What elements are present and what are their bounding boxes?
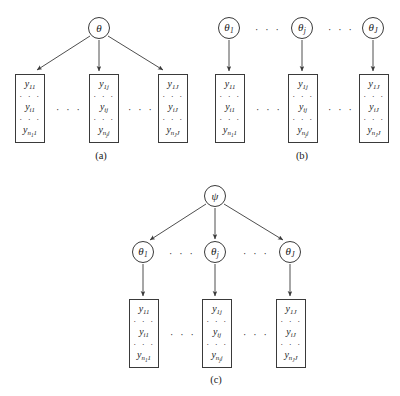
panel-c-theta1-sub: 1 — [144, 250, 148, 259]
panel-a-caption: (a) — [86, 150, 116, 161]
vertical-dots: · · · — [292, 115, 314, 124]
cell-ynjj: ynjj — [98, 125, 109, 138]
cell-yn11: yn11 — [223, 125, 237, 138]
panel-b-theta1-node: θ1 — [218, 17, 240, 39]
cell-ynJJ: ynJJ — [284, 350, 297, 363]
cell-yij: yij — [213, 327, 221, 339]
panel-c-theta-arrows — [143, 264, 290, 296]
panel-a-databox-2: y1j · · · yij · · · ynjj — [89, 74, 119, 143]
vertical-dots: · · · — [280, 317, 302, 326]
panel-b-thetaj-node: θj — [291, 17, 313, 39]
panel-b-theta1-symbol: θ1 — [224, 22, 233, 35]
panel-b-thetaJ-node: θJ — [362, 17, 384, 39]
cell-yiJ: yiJ — [369, 102, 378, 114]
panel-b-thetaj-sub: j — [304, 26, 306, 35]
cell-yij: yij — [100, 102, 108, 114]
vertical-dots: · · · — [292, 92, 314, 101]
cell-yiJ: yiJ — [168, 102, 177, 114]
vertical-dots: · · · — [93, 115, 115, 124]
panel-b-thetaJ-symbol: θJ — [368, 22, 377, 35]
panel-b-hdots-1: · · · — [256, 104, 282, 115]
vertical-dots: · · · — [93, 92, 115, 101]
panel-a-arrows — [37, 36, 163, 71]
panel-a-databox-1: y11 · · · yi1 · · · yn11 — [15, 74, 45, 143]
vertical-dots: · · · — [280, 340, 302, 349]
cell-y11: y11 — [139, 304, 150, 316]
panel-b-thetaJ-sub: J — [374, 26, 377, 35]
vertical-dots: · · · — [162, 115, 184, 124]
panel-c-thetaj-node: θj — [204, 241, 226, 263]
panel-c-databox-3: y1J · · · yiJ · · · ynJJ — [276, 299, 306, 368]
panel-c-psi-symbol: ψ — [212, 191, 219, 202]
panel-c-psi-arrows — [150, 204, 283, 240]
cell-yij: yij — [299, 102, 307, 114]
vertical-dots: · · · — [133, 317, 155, 326]
vertical-dots: · · · — [219, 115, 241, 124]
panel-b-theta1-sub: 1 — [230, 26, 234, 35]
panel-b-thetaj-symbol: θj — [298, 22, 306, 35]
cell-y1j: y1j — [99, 79, 109, 91]
vertical-dots: · · · — [219, 92, 241, 101]
panel-b-hdots-top-1: · · · — [255, 24, 281, 35]
panel-c-databox-1: y11 · · · yi1 · · · yn11 — [129, 299, 159, 368]
cell-ynJJ: ynJJ — [367, 125, 380, 138]
panel-b-databox-2: y1j · · · yij · · · ynjj — [288, 74, 318, 143]
panel-a-hdots-1: · · · — [56, 104, 82, 115]
panel-b-hdots-2: · · · — [328, 104, 354, 115]
vertical-dots: · · · — [363, 115, 385, 124]
cell-yi1: yi1 — [225, 102, 235, 114]
cell-yiJ: yiJ — [286, 327, 295, 339]
panel-c-psi-node: ψ — [204, 185, 226, 207]
panel-c-thetaJ-symbol: θJ — [285, 246, 294, 259]
panel-c-caption: (c) — [201, 374, 231, 385]
panel-c-hdots-2: · · · — [243, 329, 269, 340]
arrow-layer — [0, 0, 400, 396]
panel-c-theta1-node: θ1 — [132, 241, 154, 263]
vertical-dots: · · · — [206, 317, 228, 326]
panel-c-thetaJ-sub: J — [291, 250, 294, 259]
cell-ynjj: ynjj — [297, 125, 308, 138]
panel-c-thetaj-sub: j — [217, 250, 219, 259]
panel-b-hdots-top-2: · · · — [328, 24, 354, 35]
panel-c-thetaJ-node: θJ — [279, 241, 301, 263]
panel-a-hdots-2: · · · — [128, 104, 154, 115]
cell-yi1: yi1 — [25, 102, 35, 114]
panel-c-hdots-1: · · · — [170, 329, 196, 340]
vertical-dots: · · · — [133, 340, 155, 349]
panel-c-thetaj-symbol: θj — [211, 246, 219, 259]
panel-a-theta-node: θ — [88, 17, 110, 39]
panel-a-databox-3: y1J · · · yiJ · · · ynJJ — [158, 74, 188, 143]
panel-c-hdots-mid-1: · · · — [169, 248, 195, 259]
hierarchical-models-figure: θ y11 · · · yi1 · · · yn11 · · · y1j · ·… — [0, 0, 400, 396]
cell-ynJJ: ynJJ — [166, 125, 179, 138]
vertical-dots: · · · — [162, 92, 184, 101]
vertical-dots: · · · — [206, 340, 228, 349]
vertical-dots: · · · — [19, 92, 41, 101]
cell-y1j: y1j — [212, 304, 222, 316]
cell-yn11: yn11 — [137, 350, 151, 363]
panel-c-hdots-mid-2: · · · — [243, 248, 269, 259]
cell-ynjj: ynjj — [211, 350, 222, 363]
panel-b-caption: (b) — [287, 150, 317, 161]
cell-yi1: yi1 — [139, 327, 149, 339]
panel-b-arrows — [229, 40, 373, 71]
cell-y1J: y1J — [286, 304, 297, 316]
cell-y11: y11 — [25, 79, 36, 91]
cell-yn11: yn11 — [23, 125, 37, 138]
cell-y1J: y1J — [168, 79, 179, 91]
panel-b-databox-3: y1J · · · yiJ · · · ynJJ — [359, 74, 389, 143]
cell-y1j: y1j — [298, 79, 308, 91]
panel-b-databox-1: y11 · · · yi1 · · · yn11 — [215, 74, 245, 143]
cell-y1J: y1J — [369, 79, 380, 91]
panel-a-theta-symbol: θ — [96, 23, 101, 34]
panel-c-theta1-symbol: θ1 — [138, 246, 147, 259]
panel-c-databox-2: y1j · · · yij · · · ynjj — [202, 299, 232, 368]
cell-y11: y11 — [225, 79, 236, 91]
vertical-dots: · · · — [19, 115, 41, 124]
vertical-dots: · · · — [363, 92, 385, 101]
